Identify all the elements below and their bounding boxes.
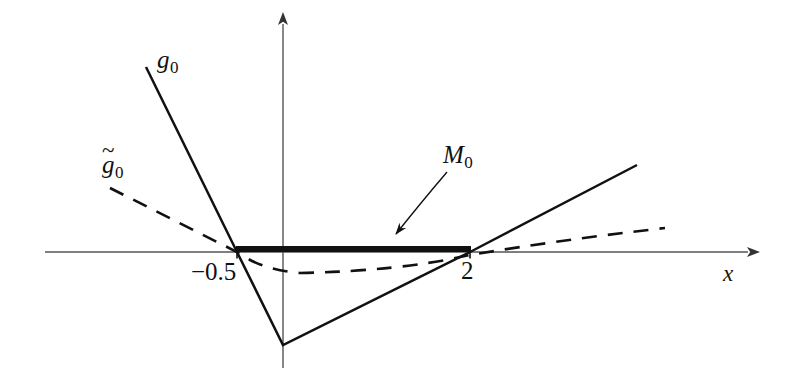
x-tick-label-2: 2	[461, 258, 474, 283]
curve-label-g0-base: g	[157, 46, 170, 73]
curve-label-g0-subscript: 0	[170, 58, 179, 77]
x-axis-label: x	[723, 262, 733, 285]
curve-label-g0-tilde-subscript: 0	[115, 163, 124, 182]
annotation-label-M0-subscript: 0	[464, 153, 473, 172]
curve-label-g0-tilde-accented: ~g	[102, 152, 115, 177]
x-tick-label-neg-0-5: −0.5	[191, 259, 236, 284]
annotation-label-M0-base: M	[443, 141, 464, 168]
figure-canvas: g0 ~g0 M0 x −0.5 2	[0, 0, 788, 390]
plot-area	[0, 0, 788, 390]
curve-label-g0-tilde: ~g0	[102, 152, 124, 177]
M0-callout-arrow	[396, 172, 447, 234]
curve-label-g0: g0	[157, 47, 179, 72]
tilde-accent-icon: ~	[102, 139, 114, 162]
curve-g0	[146, 67, 637, 345]
annotation-label-M0: M0	[443, 142, 473, 167]
